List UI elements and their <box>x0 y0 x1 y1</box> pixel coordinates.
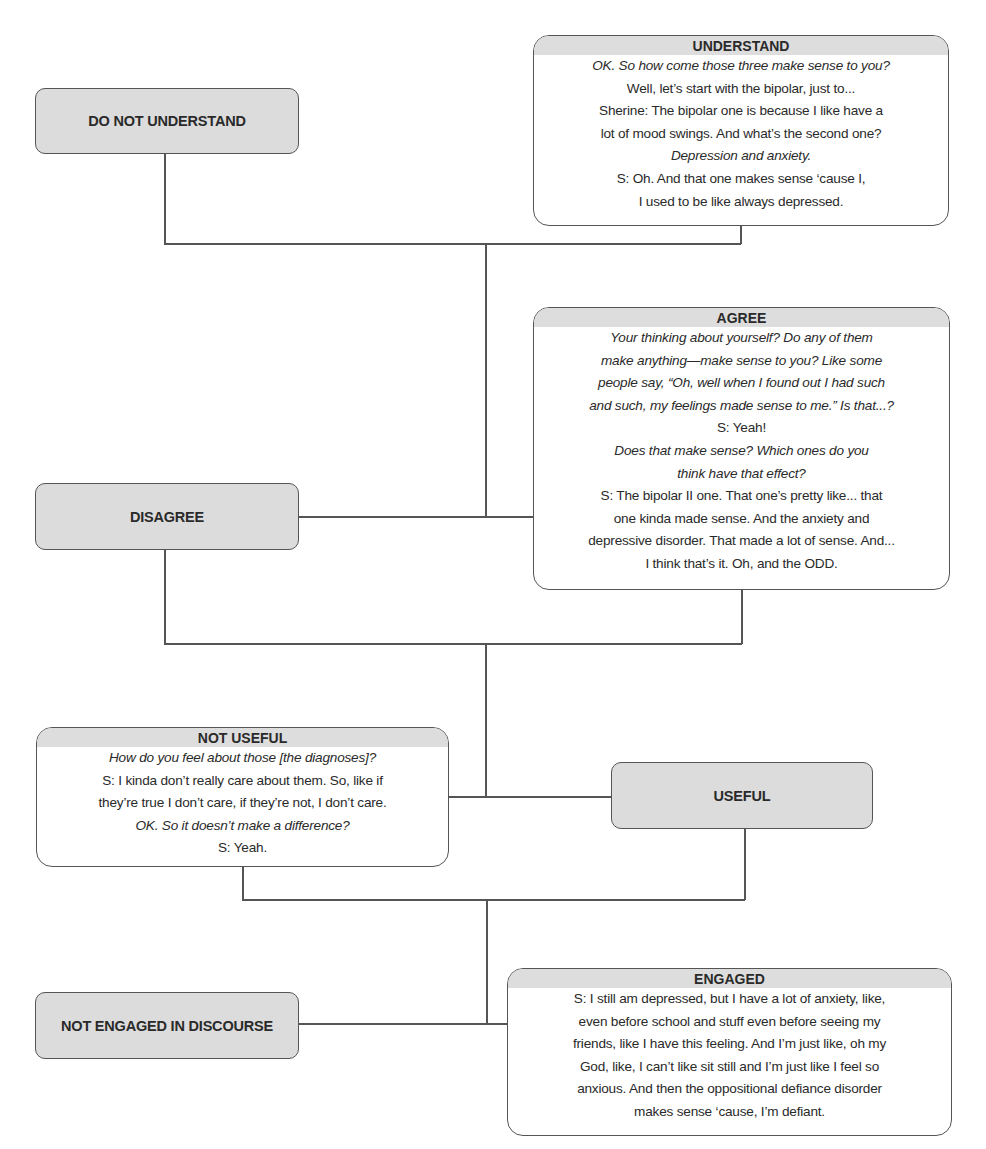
node-agree: AGREE Your thinking about yourself? Do a… <box>533 307 950 590</box>
quote-line: depressive disorder. That made a lot of … <box>538 530 945 553</box>
connector <box>744 828 746 900</box>
quote-line: How do you feel about those [the diagnos… <box>41 747 444 770</box>
node-header: AGREE <box>534 308 949 327</box>
quote-line: lot of mood swings. And what’s the secon… <box>538 123 944 146</box>
node-quote: Your thinking about yourself? Do any of … <box>534 327 949 576</box>
node-header: ENGAGED <box>508 969 951 988</box>
node-header: UNDERSTAND <box>534 36 948 55</box>
quote-line: Sherine: The bipolar one is because I li… <box>538 100 944 123</box>
node-label: DISAGREE <box>130 509 204 525</box>
node-quote: OK. So how come those three make sense t… <box>534 55 948 213</box>
node-quote: S: I still am depressed, but I have a lo… <box>508 988 951 1124</box>
quote-line: even before school and stuff even before… <box>512 1011 947 1034</box>
quote-line: S: I kinda don’t really care about them.… <box>41 770 444 793</box>
connector <box>164 243 741 245</box>
connector <box>298 1023 508 1025</box>
node-label: NOT ENGAGED IN DISCOURSE <box>61 1018 273 1034</box>
quote-line: OK. So it doesn’t make a difference? <box>41 815 444 838</box>
connector <box>485 243 487 516</box>
node-useful: USEFUL <box>611 762 873 829</box>
connector <box>164 549 166 644</box>
quote-line: OK. So how come those three make sense t… <box>538 55 944 78</box>
connector <box>486 899 488 1024</box>
quote-line: anxious. And then the oppositional defia… <box>512 1078 947 1101</box>
quote-line: Does that make sense? Which ones do you <box>538 440 945 463</box>
node-quote: How do you feel about those [the diagnos… <box>37 747 448 860</box>
quote-line: God, like, I can’t like sit still and I’… <box>512 1056 947 1079</box>
node-not-engaged: NOT ENGAGED IN DISCOURSE <box>35 992 299 1059</box>
quote-line: they’re true I don’t care, if they’re no… <box>41 792 444 815</box>
quote-line: think have that effect? <box>538 463 945 486</box>
node-do-not-understand: DO NOT UNDERSTAND <box>35 88 299 154</box>
quote-line: and such, my feelings made sense to me.”… <box>538 395 945 418</box>
quote-line: makes sense ‘cause, I’m defiant. <box>512 1101 947 1124</box>
quote-line: Well, let’s start with the bipolar, just… <box>538 78 944 101</box>
quote-line: Your thinking about yourself? Do any of … <box>538 327 945 350</box>
connector <box>740 225 742 244</box>
quote-line: S: Yeah! <box>538 417 945 440</box>
connector <box>448 796 612 798</box>
quote-line: one kinda made sense. And the anxiety an… <box>538 508 945 531</box>
connector <box>242 899 745 901</box>
connector <box>741 589 743 644</box>
quote-line: S: Oh. And that one makes sense ‘cause I… <box>538 168 944 191</box>
quote-line: Depression and anxiety. <box>538 145 944 168</box>
quote-line: make anything—make sense to you? Like so… <box>538 350 945 373</box>
node-header: NOT USEFUL <box>37 728 448 747</box>
node-engaged: ENGAGED S: I still am depressed, but I h… <box>507 968 952 1136</box>
quote-line: I used to be like always depressed. <box>538 191 944 214</box>
connector <box>299 516 533 518</box>
connector <box>242 866 244 900</box>
quote-line: friends, like I have this feeling. And I… <box>512 1033 947 1056</box>
quote-line: S: Yeah. <box>41 837 444 860</box>
connector <box>485 643 487 797</box>
node-not-useful: NOT USEFUL How do you feel about those [… <box>36 727 449 867</box>
node-label: DO NOT UNDERSTAND <box>88 113 245 129</box>
node-label: USEFUL <box>714 788 771 804</box>
connector <box>164 643 742 645</box>
connector <box>164 153 166 244</box>
quote-line: S: The bipolar II one. That one’s pretty… <box>538 485 945 508</box>
quote-line: I think that’s it. Oh, and the ODD. <box>538 553 945 576</box>
quote-line: people say, “Oh, well when I found out I… <box>538 372 945 395</box>
node-disagree: DISAGREE <box>35 483 299 550</box>
quote-line: S: I still am depressed, but I have a lo… <box>512 988 947 1011</box>
node-understand: UNDERSTAND OK. So how come those three m… <box>533 35 949 226</box>
